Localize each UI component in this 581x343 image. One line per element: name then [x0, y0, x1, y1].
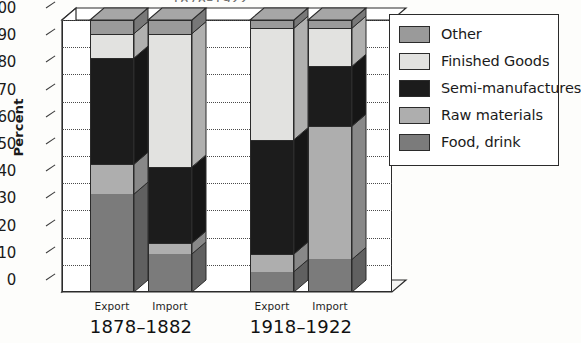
legend-swatch	[399, 53, 430, 70]
bar-segment-side	[352, 8, 366, 28]
legend-label: Food, drink	[441, 134, 521, 150]
legend-item[interactable]: Semi-manufactures	[399, 78, 581, 98]
x-axis-bar-label: Export	[82, 300, 142, 312]
legend-label: Other	[441, 26, 482, 42]
x-axis-bar-label: Import	[140, 300, 200, 312]
legend-label: Finished Goods	[441, 53, 549, 69]
bar-segment	[308, 66, 352, 126]
chart-legend: OtherFinished GoodsSemi-manufacturesRaw …	[389, 14, 559, 166]
bar-segment	[308, 259, 352, 292]
x-axis-bar-label: Import	[300, 300, 360, 312]
x-axis-group-label: 1918–1922	[231, 316, 371, 337]
legend-swatch	[399, 80, 430, 97]
legend-item[interactable]: Finished Goods	[399, 51, 549, 71]
legend-label: Semi-manufactures	[441, 80, 581, 96]
bar-segment	[308, 126, 352, 259]
legend-item[interactable]: Other	[399, 24, 482, 44]
legend-item[interactable]: Food, drink	[399, 132, 521, 152]
bar-segment-side	[352, 54, 366, 126]
bar-segment	[308, 20, 352, 28]
legend-swatch	[399, 134, 430, 151]
bar-segment-side	[352, 247, 366, 292]
bar-segment-side	[352, 16, 366, 66]
x-axis-bar-label: Export	[242, 300, 302, 312]
legend-swatch	[399, 107, 430, 124]
legend-item[interactable]: Raw materials	[399, 105, 543, 125]
bar-segment-side	[352, 114, 366, 259]
bar-segment	[308, 28, 352, 66]
x-axis-group-label: 1878–1882	[71, 316, 211, 337]
bar-top-face	[308, 8, 366, 20]
legend-label: Raw materials	[441, 107, 543, 123]
legend-swatch	[399, 26, 430, 43]
